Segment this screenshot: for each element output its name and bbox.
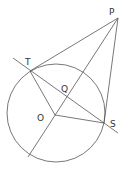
line-PO-extended: [28, 18, 118, 157]
label-T: T: [24, 57, 31, 67]
label-Q: Q: [61, 84, 68, 94]
geometry-diagram: P T Q O S: [0, 0, 128, 173]
radius-OT: [30, 71, 55, 115]
label-S: S: [110, 119, 116, 129]
chord-TS-extended: [13, 58, 118, 133]
radius-OS: [55, 115, 104, 123]
tangent-PT: [30, 18, 118, 71]
tangent-PS: [104, 18, 118, 123]
label-O: O: [37, 113, 44, 123]
label-P: P: [109, 7, 115, 17]
